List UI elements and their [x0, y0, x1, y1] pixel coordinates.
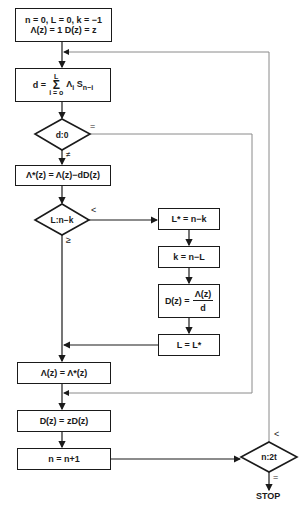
decision-d-text: d:0	[56, 130, 69, 140]
discrepancy-box: d = L Σ i = o Λi Sn−i	[15, 68, 111, 102]
init-box: n = 0, L = 0, k = −1 Λ(z) = 1 D(z) = z	[15, 8, 112, 42]
decision-d-notequal-label: ≠	[66, 150, 70, 159]
dz-update-box: D(z) = Λ(z) d	[158, 284, 220, 318]
k-update-box: k = n−L	[158, 246, 220, 268]
summation: L Σ i = o	[49, 74, 63, 96]
fraction: Λ(z) d	[193, 289, 214, 314]
decision-n-less-label: <	[274, 429, 279, 439]
lambda-term: Λi	[66, 79, 74, 92]
lstar-box: L* = n−k	[158, 208, 220, 230]
assign-lambda-box: Λ(z) = Λ*(z)	[17, 362, 111, 384]
init-line2: Λ(z) = 1 D(z) = z	[30, 25, 96, 35]
decision-n-equal-label: =	[273, 472, 278, 482]
decision-L-less-label: <	[91, 205, 96, 215]
lambda-star-update-box: Λ*(z) = Λ(z)−dD(z)	[15, 165, 111, 186]
decision-n-text: n:2t	[261, 452, 277, 462]
l-update-box: L = L*	[158, 334, 220, 356]
decision-L-text: L:n−k	[51, 215, 74, 225]
decision-L-geq-label: ≥	[66, 235, 71, 245]
increment-n-box: n = n+1	[17, 448, 111, 470]
discrepancy-lhs: d =	[33, 80, 46, 90]
decision-d-equal-label: =	[90, 121, 95, 131]
shift-d-box: D(z) = zD(z)	[17, 410, 111, 432]
syndrome-term: Sn−i	[77, 79, 93, 92]
stop-label: STOP	[256, 491, 280, 501]
init-line1: n = 0, L = 0, k = −1	[25, 15, 102, 25]
